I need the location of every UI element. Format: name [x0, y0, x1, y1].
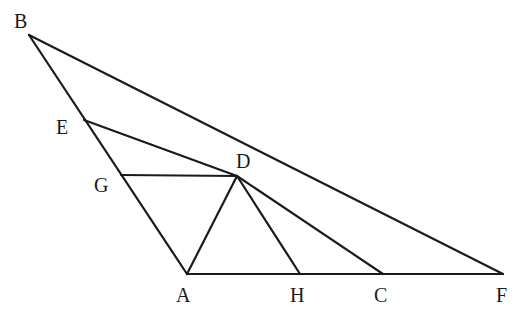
segment-GD [121, 175, 237, 176]
segment-AD [187, 176, 237, 274]
segment-BF [29, 35, 503, 274]
label-B: B [14, 10, 27, 32]
label-G: G [94, 174, 108, 196]
segments [29, 35, 503, 274]
segment-DC [237, 176, 383, 274]
label-A: A [176, 284, 191, 306]
label-C: C [374, 284, 387, 306]
point-labels: BEGDAHCF [14, 10, 507, 306]
geometry-diagram: BEGDAHCF [0, 0, 525, 326]
label-F: F [496, 284, 507, 306]
label-D: D [236, 150, 250, 172]
label-E: E [56, 116, 68, 138]
segment-BA [29, 35, 187, 274]
segment-DH [237, 176, 300, 274]
label-H: H [290, 284, 304, 306]
